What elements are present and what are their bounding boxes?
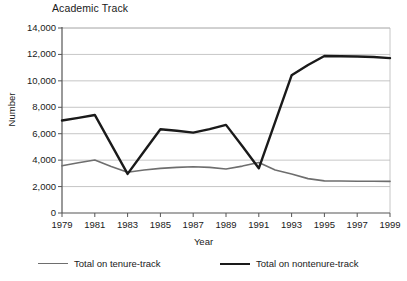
legend-label-tenure-track: Total on tenure-track [74,258,161,269]
legend-label-nontenure-track: Total on nontenure-track [256,258,358,269]
y-tick-label: 8,000 [4,101,56,112]
y-tick-label: 6,000 [4,128,56,139]
legend-item-tenure-track: Total on tenure-track [38,258,161,269]
x-tick-label: 1999 [370,219,407,230]
y-tick-label: 10,000 [4,75,56,86]
legend-item-nontenure-track: Total on nontenure-track [220,258,358,269]
y-tick-label: 14,000 [4,22,56,33]
y-tick-label: 12,000 [4,48,56,59]
legend-swatch-tenure-track [38,263,68,264]
chart-legend: Total on tenure-track Total on nontenure… [0,255,407,277]
x-axis-label: Year [0,236,407,247]
chart-figure: Academic Track Number 02,0004,0006,0008,… [0,0,407,281]
legend-swatch-nontenure-track [220,263,250,265]
y-tick-label: 4,000 [4,154,56,165]
y-tick-label: 2,000 [4,181,56,192]
y-tick-label: 0 [4,207,56,218]
